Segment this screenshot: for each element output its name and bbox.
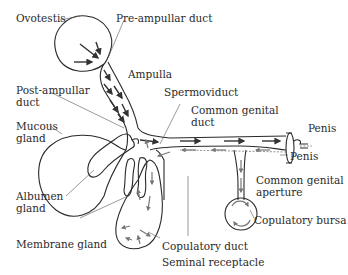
- label-common-genital-aperture-line2: aperture: [256, 186, 302, 198]
- label-penis-bottom: Penis: [290, 150, 318, 162]
- mucous-gland-shape: [39, 135, 126, 216]
- label-ampulla: Ampulla: [128, 68, 172, 80]
- label-mucous-gland-line1: Mucous: [16, 120, 58, 132]
- label-albumen-gland-line2: gland: [16, 202, 46, 214]
- reproductive-system-diagram: Ovotestis Pre-ampullar duct Ampulla Post…: [0, 0, 348, 275]
- label-copulatory-bursa: Copulatory bursa: [254, 214, 346, 226]
- label-membrane-gland: Membrane gland: [16, 238, 107, 250]
- label-post-ampullar-duct-line2: duct: [16, 96, 40, 108]
- label-seminal-receptacle: Seminal receptacle: [162, 256, 264, 268]
- ovotestis-shape: [55, 16, 112, 71]
- label-albumen-gland-line1: Albumen: [16, 190, 63, 202]
- label-ovotestis: Ovotestis: [16, 12, 66, 24]
- label-spermoviduct: Spermoviduct: [164, 86, 238, 98]
- label-mucous-gland-line2: gland: [16, 132, 46, 144]
- label-common-genital-duct-line2: duct: [191, 116, 215, 128]
- membrane-gland-shape: [124, 158, 135, 196]
- label-common-genital-aperture-line1: Common genital: [256, 174, 344, 186]
- label-pre-ampullar-duct: Pre-ampullar duct: [116, 12, 212, 24]
- anatomy-drawing: [0, 0, 348, 275]
- label-common-genital-duct-line1: Common genital: [191, 104, 279, 116]
- penis-tip: [294, 140, 308, 148]
- label-copulatory-duct: Copulatory duct: [162, 240, 248, 252]
- label-penis-top: Penis: [308, 122, 336, 134]
- label-post-ampullar-duct-line1: Post-ampullar: [16, 84, 90, 96]
